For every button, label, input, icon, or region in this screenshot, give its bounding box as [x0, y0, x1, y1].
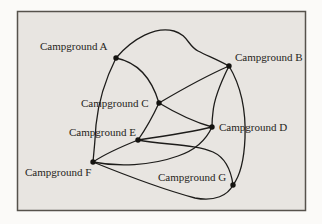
campground-C-dot	[156, 100, 161, 105]
campground-C-label: Campground C	[81, 97, 149, 109]
campground-E-label: Campground E	[69, 126, 136, 138]
campground-F-label: Campground F	[25, 166, 91, 178]
campground-G-label: Campground G	[158, 171, 226, 183]
campground-A-dot	[113, 55, 118, 60]
figure-page: Campground ACampground BCampground CCamp…	[0, 0, 322, 224]
campground-F-dot	[90, 159, 95, 164]
campground-E-dot	[135, 137, 140, 142]
campground-B-label: Campground B	[235, 51, 303, 63]
campground-B-dot	[226, 63, 231, 68]
campground-graph: Campground ACampground BCampground CCamp…	[0, 0, 322, 224]
campground-D-dot	[209, 124, 214, 129]
campground-A-label: Campground A	[40, 40, 108, 52]
campground-D-label: Campground D	[219, 121, 287, 133]
campground-G-dot	[230, 182, 235, 187]
